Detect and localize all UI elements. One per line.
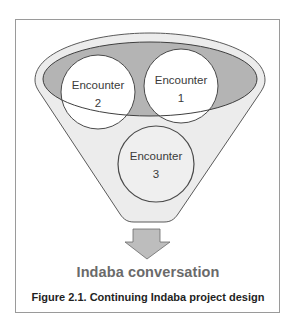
encounter-1: Encounter 1 — [144, 49, 218, 123]
encounter-2-number: 2 — [95, 97, 101, 109]
encounter-1-number: 1 — [178, 92, 184, 104]
encounter-1-label: Encounter — [155, 74, 208, 86]
down-arrow-icon — [125, 229, 170, 259]
output-label: Indaba conversation — [0, 264, 296, 280]
figure-caption: Figure 2.1. Continuing Indaba project de… — [0, 291, 296, 303]
funnel-diagram: Encounter 2 Encounter 1 Encounter 3 — [0, 0, 296, 332]
encounter-3-label: Encounter — [130, 150, 183, 162]
encounter-2: Encounter 2 — [61, 55, 135, 129]
encounter-3: Encounter 3 — [118, 126, 194, 202]
encounter-3-number: 3 — [153, 168, 159, 180]
encounter-2-label: Encounter — [72, 79, 125, 91]
